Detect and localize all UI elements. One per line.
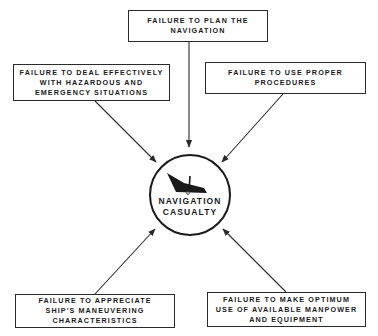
cause-box-upper-left: FAILURE TO DEAL EFFECTIVELY WITH HAZARDO… [13,64,170,101]
cause-label: FAILURE TO USE PROPER PROCEDURES [228,68,343,88]
center-circle [150,155,230,235]
connector-layer [0,0,378,336]
cause-label: FAILURE TO PLAN THE NAVIGATION [147,16,248,36]
arrow-upper-right [222,94,283,162]
arrow-lower-right [223,229,286,292]
cause-box-lower-right: FAILURE TO MAKE OPTIMUM USE OF AVAILABLE… [207,292,366,327]
arrow-lower-left [95,229,155,294]
cause-box-upper-right: FAILURE TO USE PROPER PROCEDURES [205,62,366,94]
arrow-upper-left [95,101,156,162]
cause-label: FAILURE TO APPRECIATE SHIP'S MANEUVERING… [38,296,151,326]
center-label: NAVIGATION CASUALTY [150,196,230,218]
cause-box-lower-left: FAILURE TO APPRECIATE SHIP'S MANEUVERING… [15,294,175,328]
cause-label: FAILURE TO DEAL EFFECTIVELY WITH HAZARDO… [20,68,164,98]
cause-box-top: FAILURE TO PLAN THE NAVIGATION [128,10,268,42]
diagram-canvas: NAVIGATION CASUALTY FAILURE TO PLAN THE … [0,0,378,336]
cause-label: FAILURE TO MAKE OPTIMUM USE OF AVAILABLE… [216,295,358,325]
